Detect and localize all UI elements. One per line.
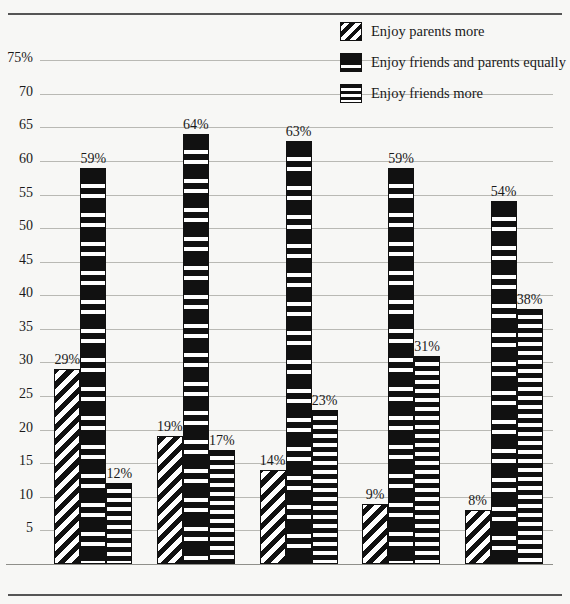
bar-value-label: 12% [106, 467, 132, 481]
y-tick-label: 50 [19, 219, 33, 233]
y-tick-label: 65 [19, 119, 33, 133]
y-tick-label: 35 [19, 320, 33, 334]
bar-slot: 64% [183, 40, 209, 564]
bar[interactable]: 59% [388, 168, 414, 564]
y-tick-label: 15 [19, 455, 33, 469]
bar[interactable]: 8% [465, 510, 491, 564]
bar-group: 14%63%23% [260, 40, 338, 564]
chart-figure: 75%706560555045403530252015105 29%59%12%… [0, 0, 570, 604]
bar[interactable]: 17% [209, 450, 235, 564]
diagonal-stripes-swatch [340, 22, 362, 41]
bar[interactable]: 54% [491, 201, 517, 564]
y-tick-label: 25 [19, 387, 33, 401]
bar-value-label: 63% [286, 125, 312, 139]
bar-value-label: 29% [54, 353, 80, 367]
bottom-divider-rule [8, 594, 562, 596]
bar-slot: 8% [465, 40, 491, 564]
bar[interactable]: 59% [80, 168, 106, 564]
bar[interactable]: 14% [260, 470, 286, 564]
bar-slot: 63% [286, 40, 312, 564]
legend-item-label: Enjoy parents more [371, 24, 485, 39]
y-tick-label: 10 [19, 488, 33, 502]
bar-slot: 59% [80, 40, 106, 564]
bar[interactable]: 23% [312, 410, 338, 565]
bar[interactable]: 12% [106, 483, 132, 564]
legend-item[interactable]: Enjoy friends and parents equally [340, 47, 565, 78]
chart-legend: Enjoy parents moreEnjoy friends and pare… [340, 16, 565, 109]
y-tick-label: 40 [19, 287, 33, 301]
bar-value-label: 59% [80, 152, 106, 166]
y-tick-label: 70 [19, 85, 33, 99]
bar-slot: 17% [209, 40, 235, 564]
bar-value-label: 64% [183, 118, 209, 132]
y-tick-label: 30 [19, 354, 33, 368]
legend-item[interactable]: Enjoy friends more [340, 78, 565, 109]
bar[interactable]: 38% [517, 309, 543, 564]
y-tick-label: 5 [26, 522, 33, 536]
plot-area: 75%706560555045403530252015105 29%59%12%… [40, 40, 553, 564]
legend-item-label: Enjoy friends and parents equally [371, 55, 566, 70]
bar[interactable]: 19% [157, 436, 183, 564]
bar-group: 8%54%38% [465, 40, 543, 564]
bar-group: 19%64%17% [157, 40, 235, 564]
bar-slot: 59% [388, 40, 414, 564]
y-tick-label: 60 [19, 152, 33, 166]
bar[interactable]: 31% [414, 356, 440, 564]
bar-value-label: 8% [468, 494, 487, 508]
bar-value-label: 17% [209, 434, 235, 448]
bar-value-label: 23% [312, 394, 338, 408]
top-divider-rule [8, 13, 562, 15]
thick-bands-swatch [340, 53, 362, 72]
bar-slot: 38% [517, 40, 543, 564]
bar-slot: 9% [362, 40, 388, 564]
bar-value-label: 38% [517, 293, 543, 307]
bar-slot: 54% [491, 40, 517, 564]
x-axis-baseline [6, 564, 553, 565]
legend-item-label: Enjoy friends more [371, 86, 483, 101]
bar-slot: 12% [106, 40, 132, 564]
bar[interactable]: 9% [362, 504, 388, 564]
bar-slot: 19% [157, 40, 183, 564]
bar[interactable]: 63% [286, 141, 312, 564]
bar[interactable]: 29% [54, 369, 80, 564]
bar-value-label: 59% [388, 152, 414, 166]
bar-value-label: 19% [157, 420, 183, 434]
bar-slot: 14% [260, 40, 286, 564]
y-tick-label: 75% [7, 51, 33, 65]
bar-value-label: 31% [414, 340, 440, 354]
y-tick-label: 20 [19, 421, 33, 435]
bar-group: 9%59%31% [362, 40, 440, 564]
bar-slot: 29% [54, 40, 80, 564]
legend-item[interactable]: Enjoy parents more [340, 16, 565, 47]
bar-value-label: 54% [491, 185, 517, 199]
bar[interactable]: 64% [183, 134, 209, 564]
y-tick-label: 45 [19, 253, 33, 267]
bar-group: 29%59%12% [54, 40, 132, 564]
thin-lines-swatch [340, 84, 362, 103]
bar-slot: 23% [312, 40, 338, 564]
y-tick-label: 55 [19, 186, 33, 200]
bar-value-label: 9% [366, 488, 385, 502]
bar-value-label: 14% [260, 454, 286, 468]
bar-slot: 31% [414, 40, 440, 564]
